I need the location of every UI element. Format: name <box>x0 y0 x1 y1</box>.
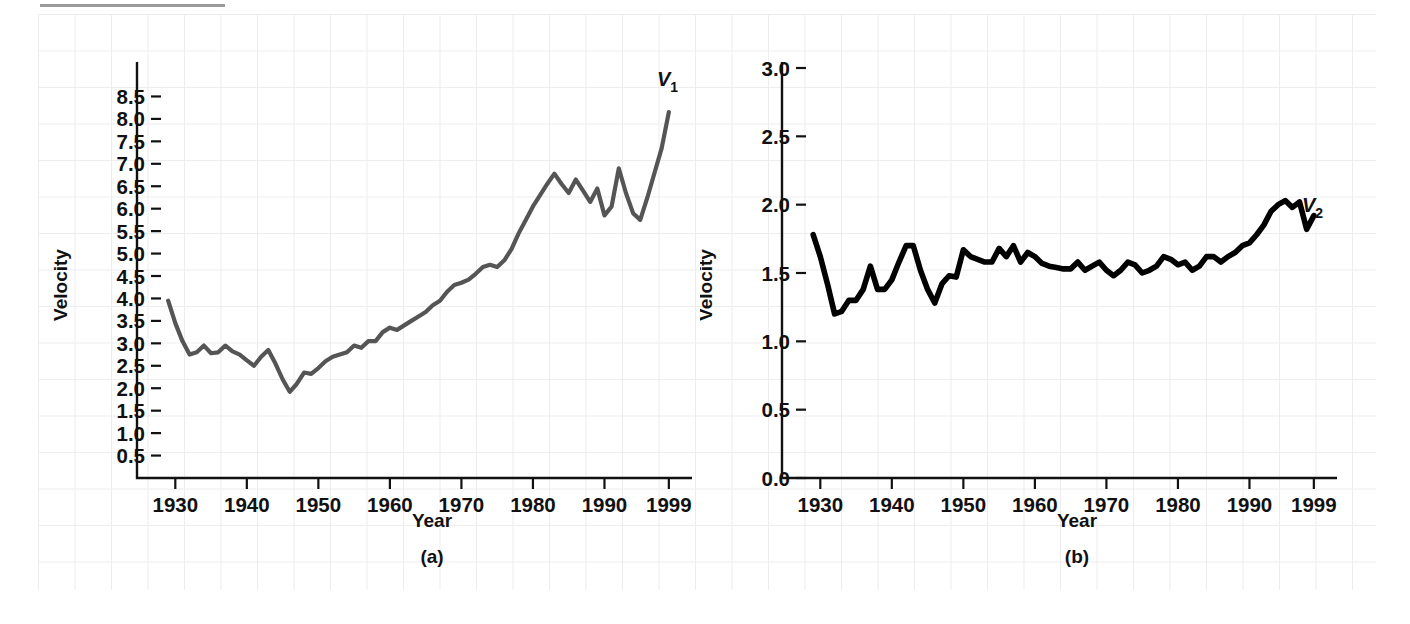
chart-a-series-annotation: V1 <box>657 68 678 95</box>
y-tick-label: 7.5 <box>117 130 146 153</box>
x-tick-label: 1940 <box>224 493 270 516</box>
y-tick-label: 1.0 <box>117 422 146 445</box>
chart-b-caption: (b) <box>1065 546 1089 567</box>
y-tick-label: 0.0 <box>762 467 791 490</box>
y-tick-label: 2.0 <box>117 377 146 400</box>
chart-a-caption: (a) <box>420 546 443 567</box>
chart-a-svg: 0.51.01.52.02.53.03.54.04.55.05.56.06.57… <box>0 0 710 624</box>
chart-a-series-v1-line <box>168 112 669 392</box>
x-tick-label: 1930 <box>153 493 199 516</box>
chart-a-axes <box>137 62 692 478</box>
x-tick-label: 1999 <box>1291 493 1337 516</box>
y-tick-label: 7.0 <box>117 152 146 175</box>
x-tick-label: 1960 <box>1012 493 1058 516</box>
y-tick-label: 5.5 <box>117 220 146 243</box>
y-tick-label: 3.0 <box>762 57 791 80</box>
chart-b-x-ticks <box>820 478 1314 489</box>
y-tick-label: 3.5 <box>117 309 146 332</box>
x-tick-label: 1940 <box>869 493 915 516</box>
x-tick-label: 1980 <box>510 493 556 516</box>
chart-b-series-v2-line <box>813 201 1314 314</box>
y-tick-label: 4.0 <box>117 287 146 310</box>
chart-b-y-ticks <box>796 68 806 478</box>
chart-a-y-ticks <box>151 96 161 455</box>
x-tick-label: 1950 <box>296 493 342 516</box>
y-tick-label: 1.0 <box>762 330 791 353</box>
y-tick-label: 6.0 <box>117 197 146 220</box>
x-tick-label: 1980 <box>1155 493 1201 516</box>
chart-a-y-tick-labels: 0.51.01.52.02.53.03.54.04.55.05.56.06.57… <box>117 85 146 467</box>
y-tick-label: 0.5 <box>762 398 791 421</box>
y-tick-label: 8.0 <box>117 107 146 130</box>
figure-panel-a: 0.51.01.52.02.53.03.54.04.55.05.56.06.57… <box>0 0 710 624</box>
y-tick-label: 2.5 <box>117 354 146 377</box>
x-tick-label: 1999 <box>646 493 692 516</box>
x-tick-label: 1990 <box>582 493 628 516</box>
y-tick-label: 3.0 <box>117 332 146 355</box>
chart-a-xaxis-label: Year <box>412 510 453 531</box>
y-tick-label: 1.5 <box>762 262 791 285</box>
chart-a-x-ticks <box>175 478 669 489</box>
x-tick-label: 1950 <box>941 493 987 516</box>
y-tick-label: 2.5 <box>762 125 791 148</box>
x-tick-label: 1930 <box>798 493 844 516</box>
y-tick-label: 0.5 <box>117 444 146 467</box>
y-tick-label: 8.5 <box>117 85 146 108</box>
x-tick-label: 1990 <box>1227 493 1273 516</box>
chart-b-xaxis-label: Year <box>1057 510 1098 531</box>
x-tick-label: 1960 <box>367 493 413 516</box>
chart-a-yaxis-label: Velocity <box>50 249 71 321</box>
chart-b-yaxis-label: Velocity <box>700 249 716 321</box>
figure-panel-b: 0.00.51.01.52.02.53.0 193019401950196019… <box>700 0 1410 624</box>
chart-b-y-tick-labels: 0.00.51.01.52.02.53.0 <box>762 57 791 490</box>
y-tick-label: 6.5 <box>117 175 146 198</box>
y-tick-label: 4.5 <box>117 265 146 288</box>
y-tick-label: 1.5 <box>117 399 146 422</box>
chart-b-svg: 0.00.51.01.52.02.53.0 193019401950196019… <box>700 0 1410 624</box>
y-tick-label: 2.0 <box>762 193 791 216</box>
y-tick-label: 5.0 <box>117 242 146 265</box>
